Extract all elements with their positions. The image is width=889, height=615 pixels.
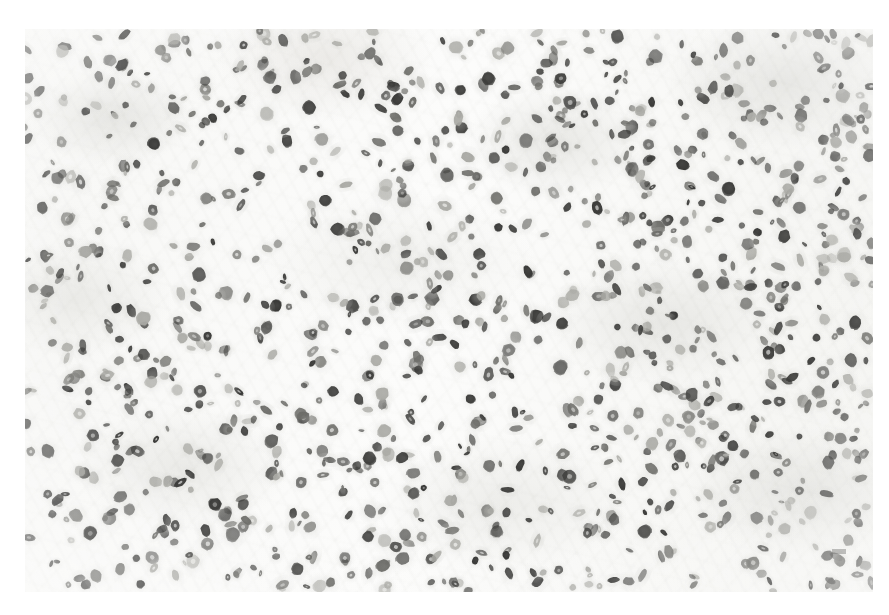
nuclei-layer [25, 29, 873, 592]
faint-artifact-mark-icon [832, 549, 846, 554]
micrograph-figure [0, 0, 889, 615]
tissue-field [25, 29, 873, 592]
